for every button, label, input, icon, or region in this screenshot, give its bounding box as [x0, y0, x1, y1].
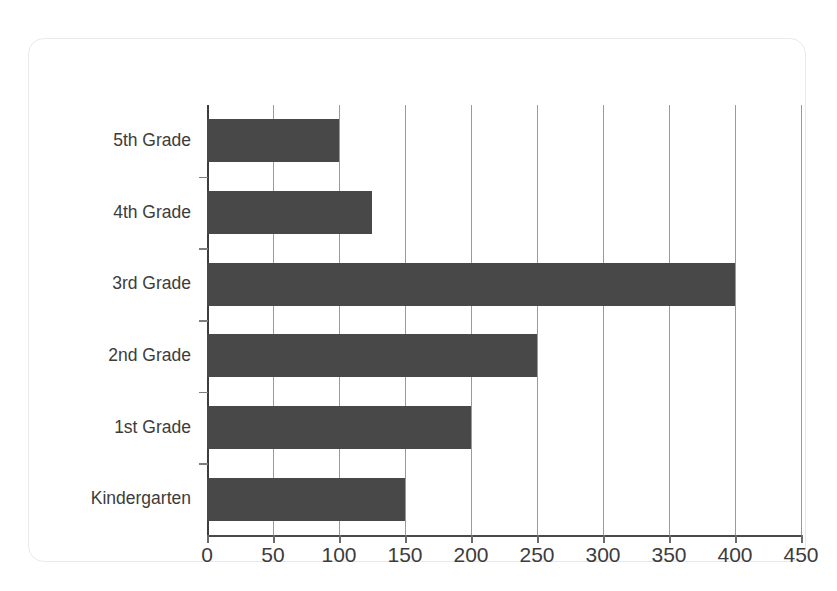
chart-screenshot: 5th Grade4th Grade3rd Grade2nd Grade1st … [0, 0, 837, 591]
x-axis-tick-label-250: 250 [519, 544, 554, 565]
x-axis-tick-450 [801, 535, 803, 543]
plot-area [207, 105, 801, 535]
category-label-1st-grade: 1st Grade [114, 419, 191, 437]
x-axis-tick-400 [735, 535, 737, 543]
gridline-50 [273, 105, 274, 535]
x-axis-tick-label-0: 0 [201, 544, 213, 565]
bar-1st-grade[interactable] [207, 406, 471, 449]
gridline-250 [537, 105, 538, 535]
x-axis-tick-100 [339, 535, 341, 543]
category-label-kindergarten: Kindergarten [91, 490, 191, 508]
bar-row[interactable] [207, 263, 801, 306]
x-axis-tick-label-400: 400 [717, 544, 752, 565]
bar-row[interactable] [207, 478, 801, 521]
gridline-450 [801, 105, 802, 535]
bar-row[interactable] [207, 406, 801, 449]
chart-card: 5th Grade4th Grade3rd Grade2nd Grade1st … [28, 38, 806, 562]
x-axis-tick-label-350: 350 [651, 544, 686, 565]
x-axis-tick-0 [207, 535, 209, 543]
x-axis-tick-label-300: 300 [585, 544, 620, 565]
bar-3rd-grade[interactable] [207, 263, 735, 306]
y-axis-tick [199, 320, 208, 322]
bar-4th-grade[interactable] [207, 191, 372, 234]
category-label-2nd-grade: 2nd Grade [108, 347, 191, 365]
x-axis-tick-250 [537, 535, 539, 543]
x-axis-tick-label-50: 50 [261, 544, 284, 565]
gridline-350 [669, 105, 670, 535]
bar-row[interactable] [207, 119, 801, 162]
x-axis-tick-200 [471, 535, 473, 543]
y-axis-tick [199, 177, 208, 179]
bar-2nd-grade[interactable] [207, 334, 537, 377]
category-label-4th-grade: 4th Grade [113, 204, 191, 222]
x-axis-tick-label-100: 100 [321, 544, 356, 565]
gridline-200 [471, 105, 472, 535]
bar-5th-grade[interactable] [207, 119, 339, 162]
gridline-100 [339, 105, 340, 535]
y-axis-tick [199, 248, 208, 250]
x-axis-tick-300 [603, 535, 605, 543]
x-axis-tick-label-450: 450 [783, 544, 818, 565]
bar-row[interactable] [207, 191, 801, 234]
bar-kindergarten[interactable] [207, 478, 405, 521]
x-axis-tick-label-200: 200 [453, 544, 488, 565]
x-axis-tick-50 [273, 535, 275, 543]
bar-row[interactable] [207, 334, 801, 377]
y-axis-category-labels: 5th Grade4th Grade3rd Grade2nd Grade1st … [29, 105, 191, 535]
x-axis-tick-label-150: 150 [387, 544, 422, 565]
y-axis-tick [199, 463, 208, 465]
gridline-300 [603, 105, 604, 535]
category-label-5th-grade: 5th Grade [113, 132, 191, 150]
x-axis-tick-350 [669, 535, 671, 543]
x-axis-tick-150 [405, 535, 407, 543]
x-axis-line [207, 535, 803, 537]
y-axis-tick [199, 392, 208, 394]
category-label-3rd-grade: 3rd Grade [112, 275, 191, 293]
gridline-150 [405, 105, 406, 535]
gridline-400 [735, 105, 736, 535]
